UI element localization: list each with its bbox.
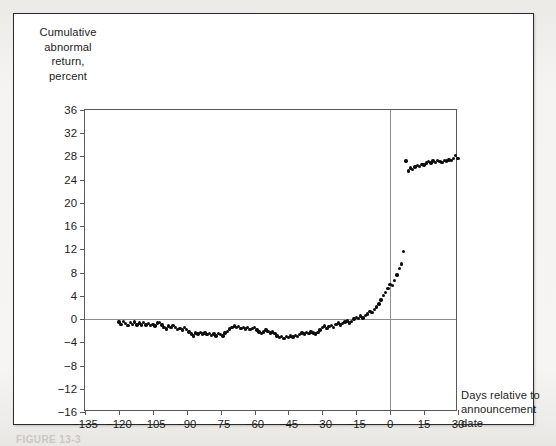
- x-tick-mark: [221, 410, 222, 415]
- x-tick-label: −15: [347, 418, 366, 430]
- x-tick-mark: [424, 410, 425, 415]
- y-tick-label: −12: [58, 383, 77, 395]
- x-tick-mark: [255, 410, 256, 415]
- data-point: [393, 279, 396, 282]
- x-tick-label: −75: [211, 418, 230, 430]
- data-point: [165, 327, 168, 330]
- x-tick-mark: [390, 410, 391, 415]
- x-tick-mark: [288, 410, 289, 415]
- y-tick-mark: [80, 180, 85, 181]
- zero-reference-line: [85, 319, 456, 320]
- y-tick-label: 4: [71, 290, 77, 302]
- data-point: [400, 262, 403, 265]
- y-tick-label: −8: [64, 360, 77, 372]
- data-point: [370, 311, 373, 314]
- y-tick-label: 12: [64, 243, 77, 255]
- data-point: [402, 250, 405, 253]
- data-point: [391, 284, 394, 287]
- x-tick-label: −30: [313, 418, 332, 430]
- y-tick-label: 32: [64, 127, 77, 139]
- figure-page: Cumulative abnormal return, percent Days…: [0, 0, 556, 446]
- y-tick-mark: [80, 226, 85, 227]
- x-tick-label: 0: [387, 418, 393, 430]
- y-tick-mark: [80, 133, 85, 134]
- x-tick-mark: [458, 410, 459, 415]
- y-tick-mark: [80, 296, 85, 297]
- data-point: [456, 157, 459, 160]
- x-tick-label: −105: [140, 418, 166, 430]
- y-tick-mark: [80, 389, 85, 390]
- y-tick-label: 8: [71, 267, 77, 279]
- data-point: [407, 169, 410, 172]
- data-point: [452, 157, 455, 160]
- x-tick-label: −45: [279, 418, 298, 430]
- figure-caption: FIGURE 13-3: [16, 434, 81, 445]
- x-axis-title: Days relative to announcement date: [461, 388, 556, 431]
- data-point: [192, 334, 195, 337]
- data-point: [119, 323, 122, 326]
- data-point: [404, 159, 407, 162]
- y-tick-label: 20: [64, 197, 77, 209]
- y-tick-label: 36: [64, 104, 77, 116]
- data-point: [384, 291, 387, 294]
- data-point: [386, 287, 389, 290]
- x-tick-mark: [119, 410, 120, 415]
- x-tick-mark: [153, 410, 154, 415]
- data-point: [126, 324, 129, 327]
- x-tick-label: −60: [245, 418, 264, 430]
- y-tick-mark: [80, 342, 85, 343]
- y-tick-label: 24: [64, 174, 77, 186]
- y-axis-title: Cumulative abnormal return, percent: [22, 25, 114, 83]
- data-point: [221, 334, 224, 337]
- data-point: [377, 302, 380, 305]
- y-tick-mark: [80, 366, 85, 367]
- data-point: [379, 298, 382, 301]
- y-tick-mark: [80, 203, 85, 204]
- y-tick-mark: [80, 249, 85, 250]
- y-tick-label: −4: [64, 336, 77, 348]
- data-point: [398, 267, 401, 270]
- x-tick-mark: [187, 410, 188, 415]
- y-tick-mark: [80, 273, 85, 274]
- y-tick-label: −16: [58, 406, 77, 418]
- data-point: [153, 324, 156, 327]
- x-tick-label: −135: [72, 418, 98, 430]
- data-point: [332, 326, 335, 329]
- x-tick-mark: [356, 410, 357, 415]
- data-point: [318, 328, 321, 331]
- y-tick-label: 16: [64, 220, 77, 232]
- x-tick-mark: [85, 410, 86, 415]
- figure-frame: Cumulative abnormal return, percent Days…: [13, 13, 534, 425]
- x-tick-mark: [322, 410, 323, 415]
- y-tick-mark: [80, 110, 85, 111]
- x-tick-label: 30: [452, 418, 465, 430]
- x-tick-label: −90: [177, 418, 196, 430]
- x-tick-label: −120: [106, 418, 132, 430]
- y-tick-mark: [80, 156, 85, 157]
- y-tick-label: 0: [71, 313, 77, 325]
- announcement-day-line: [390, 110, 391, 410]
- plot-area: 36322824201612840−4−8−12−16 −135−120−105…: [84, 109, 457, 411]
- data-point: [395, 273, 398, 276]
- data-point: [375, 305, 378, 308]
- y-tick-label: 28: [64, 150, 77, 162]
- data-point: [382, 294, 385, 297]
- x-tick-label: 15: [418, 418, 431, 430]
